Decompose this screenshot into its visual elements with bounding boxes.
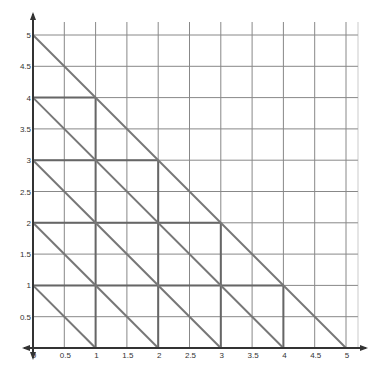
x-tick-label: 4 <box>282 351 287 360</box>
y-tick-label: 4.5 <box>20 62 32 71</box>
grid-lines <box>33 22 358 348</box>
x-tick-label: 2.5 <box>185 351 197 360</box>
x-tick-label: 3.5 <box>248 351 260 360</box>
arrow-up-icon <box>30 12 36 20</box>
x-tick-label: 2 <box>157 351 162 360</box>
y-tick-label: 1.5 <box>20 250 32 259</box>
y-tick-label: 3.5 <box>20 125 32 134</box>
x-tick-label: 5 <box>345 351 350 360</box>
plot-area: 00.511.522.533.544.550.511.522.533.544.5… <box>0 0 379 378</box>
y-tick-label: 1 <box>27 281 32 290</box>
y-tick-label: 2 <box>27 219 32 228</box>
y-tick-label: 0.5 <box>20 313 32 322</box>
x-tick-label: 4.5 <box>310 351 322 360</box>
axes <box>22 12 368 360</box>
y-tick-label: 3 <box>27 156 32 165</box>
x-tick-label: 3 <box>220 351 225 360</box>
x-tick-label: 1 <box>94 351 99 360</box>
y-tick-label: 5 <box>27 31 32 40</box>
x-tick-label: 1.5 <box>122 351 134 360</box>
arrow-right-icon <box>360 345 368 351</box>
y-tick-label: 4 <box>27 94 32 103</box>
x-tick-label: 0 <box>32 351 37 360</box>
y-tick-label: 2.5 <box>20 188 32 197</box>
arrow-left-icon <box>22 345 30 351</box>
x-tick-label: 0.5 <box>60 351 72 360</box>
